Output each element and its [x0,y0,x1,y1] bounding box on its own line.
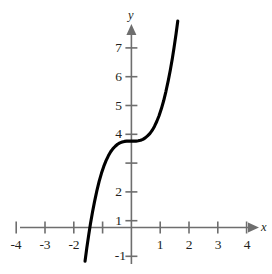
graph-figure: y x -4 -3 -2 1 2 3 4 7 6 5 4 2 1 -1 [0,0,272,274]
x-tick-label-1: 1 [157,238,164,252]
x-axis [16,222,259,234]
x-tick-label-2: 2 [186,238,193,252]
y-tick-label-7: 7 [115,41,122,55]
x-tick-label-neg4: -4 [10,238,21,252]
x-tick-label-4: 4 [244,238,251,252]
y-tick-label-4: 4 [115,127,122,141]
x-tick-label-neg2: -2 [68,238,79,252]
y-tick-label-2: 2 [115,185,122,199]
x-axis-label: x [261,221,267,234]
x-tick-label-neg3: -3 [39,238,50,252]
y-axis-label: y [128,9,134,22]
x-tick-label-3: 3 [215,238,222,252]
y-tick-label-5: 5 [115,99,122,113]
coordinate-plane [0,0,272,274]
y-tick-label-neg1: -1 [115,249,126,263]
y-tick-label-1: 1 [115,214,122,228]
y-tick-label-6: 6 [115,70,122,84]
